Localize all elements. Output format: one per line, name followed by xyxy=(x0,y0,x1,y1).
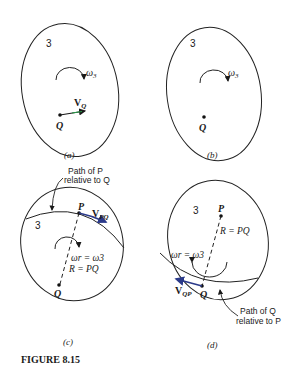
body-number: 3 xyxy=(35,220,41,231)
point-Q xyxy=(57,283,61,287)
path-note: Path of Q relative to P xyxy=(236,306,281,326)
rotation-arrow-icon xyxy=(56,67,84,80)
leader-arrow-icon xyxy=(52,178,63,210)
rotation-arrow-icon xyxy=(192,262,227,277)
omega-equation: ωr = ω3 xyxy=(171,250,204,260)
point-P-label: P xyxy=(218,203,225,214)
figure-8-15: 3 ω3 VQ Q (a) 3 ω3 Q (b) Path of P relat… xyxy=(0,0,307,376)
panel-c: Path of P relative to Q 3 P VPQ ωr = ω3 … xyxy=(10,166,133,347)
body-number: 3 xyxy=(190,38,196,49)
point-Q xyxy=(202,115,206,119)
omega-label: ω3 xyxy=(86,67,97,80)
panel-label: (c) xyxy=(63,337,73,347)
point-P-label: P xyxy=(78,201,85,212)
body-number: 3 xyxy=(193,205,199,216)
panel-d: 3 P R = PQ ωr = ω3 VQP Q Path of Q relat… xyxy=(158,172,281,350)
omega-equation: ωr = ω3 xyxy=(71,253,104,263)
point-Q-label: Q xyxy=(199,122,206,133)
point-Q-label: Q xyxy=(200,289,207,300)
omega-label: ω3 xyxy=(228,67,239,80)
panel-label: (b) xyxy=(207,150,218,160)
panel-b: 3 ω3 Q (b) xyxy=(158,21,270,167)
velocity-label: VQ xyxy=(74,97,86,110)
rotation-arrow-icon xyxy=(200,70,228,83)
body-3-outline xyxy=(158,21,270,167)
panel-label: (d) xyxy=(207,340,218,350)
panel-a: 3 ω3 VQ Q (a) xyxy=(11,16,129,165)
path-note: Path of P relative to Q xyxy=(64,166,110,185)
radius-equation: R = PQ xyxy=(219,226,250,236)
point-Q-label: Q xyxy=(56,120,63,131)
figure-caption: FIGURE 8.15 xyxy=(21,354,80,365)
velocity-label: VPQ xyxy=(92,208,109,221)
radius-equation: R = PQ xyxy=(68,264,99,274)
body-3-outline xyxy=(11,16,129,165)
rotation-arrow-icon xyxy=(55,237,79,249)
point-Q-label: Q xyxy=(54,288,61,299)
panel-label: (a) xyxy=(64,150,75,160)
body-number: 3 xyxy=(46,38,52,49)
leader-arrow-icon xyxy=(220,290,238,316)
body-3-outline xyxy=(10,178,133,311)
